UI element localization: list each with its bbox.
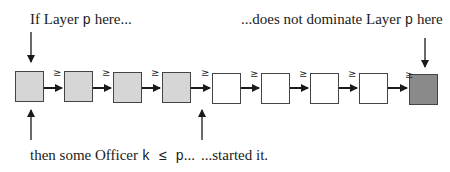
arrows-layer — [0, 0, 450, 172]
vertical-arrows — [31, 32, 425, 140]
